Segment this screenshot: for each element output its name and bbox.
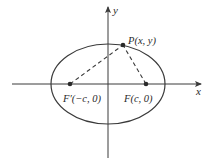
diagram-svg: y x P(x, y) F′(−c, 0) F(c, 0) — [0, 0, 211, 167]
point-p — [121, 43, 126, 48]
x-axis-label: x — [195, 85, 201, 97]
focus-f — [144, 82, 149, 87]
segment-fprime-to-p — [70, 45, 123, 84]
segment-f-to-p — [123, 45, 146, 84]
focus-f-prime — [68, 82, 73, 87]
focus-f-label: F(c, 0) — [123, 93, 153, 105]
focus-f-prime-label: F′(−c, 0) — [62, 93, 101, 105]
point-p-label: P(x, y) — [127, 35, 156, 47]
y-axis-label: y — [112, 4, 118, 16]
ellipse-diagram: y x P(x, y) F′(−c, 0) F(c, 0) — [0, 0, 211, 167]
